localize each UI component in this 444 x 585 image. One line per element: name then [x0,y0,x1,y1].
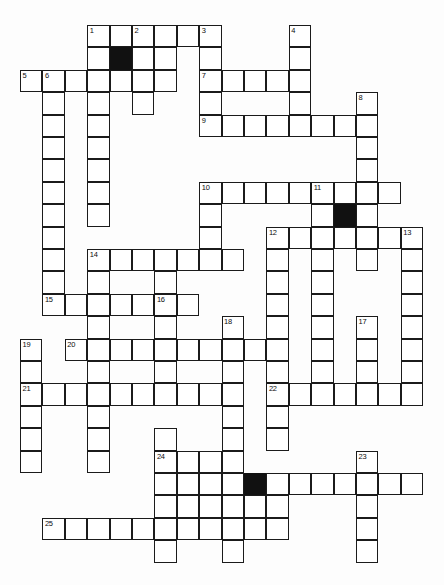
crossword-cell[interactable]: 25 [42,518,64,540]
crossword-cell[interactable] [266,182,288,204]
crossword-cell[interactable] [154,316,176,338]
crossword-cell[interactable] [177,25,199,47]
crossword-cell[interactable] [87,115,109,137]
crossword-cell[interactable] [65,518,87,540]
crossword-cell[interactable] [20,361,42,383]
crossword-cell[interactable] [154,518,176,540]
crossword-cell[interactable] [356,383,378,405]
crossword-cell[interactable] [132,383,154,405]
crossword-cell[interactable] [132,249,154,271]
crossword-cell[interactable] [177,451,199,473]
crossword-cell[interactable] [222,473,244,495]
crossword-cell[interactable] [42,227,64,249]
crossword-cell[interactable] [177,473,199,495]
crossword-cell[interactable] [177,518,199,540]
crossword-cell[interactable] [87,47,109,69]
crossword-cell[interactable] [289,47,311,69]
crossword-cell[interactable] [110,294,132,316]
crossword-cell[interactable] [266,428,288,450]
crossword-cell[interactable]: 10 [199,182,221,204]
crossword-cell[interactable] [222,249,244,271]
crossword-cell[interactable] [311,204,333,226]
crossword-cell[interactable]: 1 [87,25,109,47]
crossword-cell[interactable] [356,249,378,271]
crossword-cell[interactable] [378,473,400,495]
crossword-cell[interactable] [266,406,288,428]
crossword-cell[interactable]: 16 [154,294,176,316]
crossword-cell[interactable] [311,249,333,271]
crossword-cell[interactable] [87,159,109,181]
crossword-cell[interactable] [244,115,266,137]
crossword-cell[interactable] [199,518,221,540]
crossword-cell[interactable] [199,473,221,495]
crossword-cell[interactable] [289,383,311,405]
crossword-cell[interactable] [87,182,109,204]
crossword-cell[interactable] [110,70,132,92]
crossword-cell[interactable] [87,70,109,92]
crossword-cell[interactable] [222,70,244,92]
crossword-cell[interactable]: 11 [311,182,333,204]
crossword-cell[interactable] [154,540,176,562]
crossword-cell[interactable] [334,473,356,495]
crossword-cell[interactable]: 24 [154,451,176,473]
crossword-cell[interactable]: 2 [132,25,154,47]
crossword-cell[interactable] [154,473,176,495]
crossword-cell[interactable] [266,361,288,383]
crossword-cell[interactable]: 22 [266,383,288,405]
crossword-cell[interactable] [266,473,288,495]
crossword-cell[interactable] [154,495,176,517]
crossword-cell[interactable] [401,249,423,271]
crossword-cell[interactable] [356,339,378,361]
crossword-cell[interactable] [87,316,109,338]
crossword-cell[interactable] [199,495,221,517]
crossword-cell[interactable] [334,115,356,137]
crossword-cell[interactable] [154,428,176,450]
crossword-cell[interactable]: 17 [356,316,378,338]
crossword-cell[interactable] [132,70,154,92]
crossword-cell[interactable] [401,316,423,338]
crossword-cell[interactable] [401,361,423,383]
crossword-cell[interactable] [356,227,378,249]
crossword-cell[interactable] [356,115,378,137]
crossword-cell[interactable]: 6 [42,70,64,92]
crossword-cell[interactable] [266,316,288,338]
crossword-cell[interactable] [132,518,154,540]
crossword-cell[interactable] [356,204,378,226]
crossword-cell[interactable] [177,339,199,361]
crossword-cell[interactable] [199,451,221,473]
crossword-cell[interactable] [266,70,288,92]
crossword-cell[interactable] [311,294,333,316]
crossword-cell[interactable] [356,473,378,495]
crossword-cell[interactable] [266,271,288,293]
crossword-cell[interactable] [289,115,311,137]
crossword-cell[interactable] [87,383,109,405]
crossword-cell[interactable] [42,92,64,114]
crossword-cell[interactable] [222,451,244,473]
crossword-cell[interactable] [266,249,288,271]
crossword-cell[interactable] [199,339,221,361]
crossword-cell[interactable] [222,339,244,361]
crossword-cell[interactable]: 3 [199,25,221,47]
crossword-cell[interactable] [154,25,176,47]
crossword-cell[interactable] [289,70,311,92]
crossword-cell[interactable] [87,339,109,361]
crossword-cell[interactable] [199,227,221,249]
crossword-cell[interactable]: 20 [65,339,87,361]
crossword-cell[interactable] [42,137,64,159]
crossword-cell[interactable] [42,383,64,405]
crossword-cell[interactable] [334,383,356,405]
crossword-cell[interactable]: 14 [87,249,109,271]
crossword-cell[interactable] [20,451,42,473]
crossword-cell[interactable] [222,540,244,562]
crossword-cell[interactable] [356,495,378,517]
crossword-cell[interactable] [199,204,221,226]
crossword-cell[interactable] [334,227,356,249]
crossword-cell[interactable] [356,182,378,204]
crossword-cell[interactable] [154,339,176,361]
crossword-cell[interactable] [87,451,109,473]
crossword-cell[interactable] [266,294,288,316]
crossword-cell[interactable] [132,294,154,316]
crossword-cell[interactable] [154,70,176,92]
crossword-cell[interactable] [65,294,87,316]
crossword-cell[interactable] [87,428,109,450]
